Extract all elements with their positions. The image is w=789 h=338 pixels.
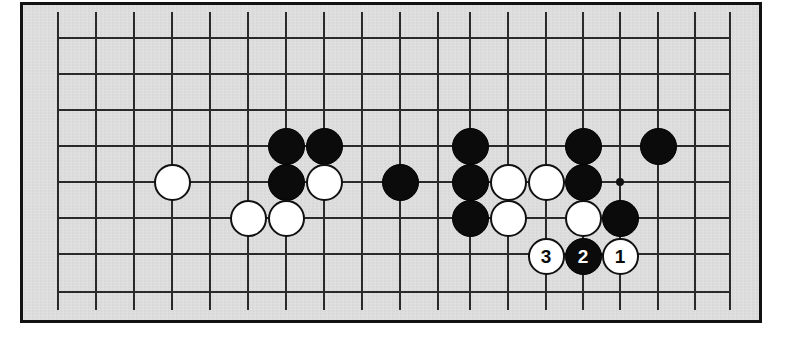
black-stone[interactable] <box>268 128 305 165</box>
black-stone[interactable] <box>452 200 489 237</box>
grid-line-horizontal <box>58 291 730 293</box>
grid-line-vertical <box>507 12 509 310</box>
grid-line-vertical <box>209 12 211 310</box>
grid-line-vertical <box>247 12 249 310</box>
white-stone[interactable] <box>565 200 602 237</box>
grid-line-vertical <box>694 12 696 310</box>
grid-line-vertical <box>437 12 439 310</box>
grid-line-vertical <box>171 12 173 310</box>
numbered-stone-1[interactable]: 1 <box>602 238 639 275</box>
grid-line-vertical <box>95 12 97 310</box>
grid-line-vertical <box>729 12 731 310</box>
white-stone[interactable] <box>490 164 527 201</box>
black-stone[interactable] <box>640 128 677 165</box>
grid-line-vertical <box>133 12 135 310</box>
numbered-stone-3[interactable]: 3 <box>528 238 565 275</box>
black-stone[interactable] <box>306 128 343 165</box>
go-board-grid: 321 <box>0 0 789 338</box>
stone-move-number: 1 <box>615 246 626 265</box>
white-stone[interactable] <box>528 164 565 201</box>
grid-line-vertical <box>57 12 59 310</box>
go-diagram-root: 321 <box>0 0 789 338</box>
black-stone[interactable] <box>268 164 305 201</box>
black-stone[interactable] <box>565 128 602 165</box>
white-stone[interactable] <box>490 200 527 237</box>
black-stone[interactable] <box>565 164 602 201</box>
star-point-marker <box>616 178 624 186</box>
grid-line-horizontal <box>58 37 730 39</box>
white-stone[interactable] <box>154 164 191 201</box>
grid-line-horizontal <box>58 73 730 75</box>
black-stone[interactable] <box>452 164 489 201</box>
stone-move-number: 3 <box>541 246 552 265</box>
black-stone[interactable] <box>382 164 419 201</box>
numbered-stone-2[interactable]: 2 <box>565 238 602 275</box>
grid-line-horizontal <box>58 109 730 111</box>
grid-line-vertical <box>361 12 363 310</box>
grid-line-horizontal <box>58 145 730 147</box>
grid-line-vertical <box>399 12 401 310</box>
black-stone[interactable] <box>602 200 639 237</box>
white-stone[interactable] <box>306 164 343 201</box>
white-stone[interactable] <box>268 200 305 237</box>
white-stone[interactable] <box>230 200 267 237</box>
black-stone[interactable] <box>452 128 489 165</box>
stone-move-number: 2 <box>578 246 589 265</box>
